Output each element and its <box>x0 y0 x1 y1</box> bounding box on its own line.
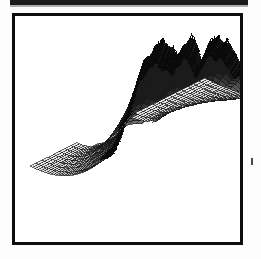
scanned-page <box>0 0 261 259</box>
surface-plot-3d <box>15 16 240 242</box>
scan-edge-band-soft <box>10 5 248 7</box>
scan-speck-artifact <box>251 158 253 165</box>
paper-gutter <box>244 7 261 259</box>
figure-plate <box>15 16 240 242</box>
figure-frame <box>12 13 243 245</box>
